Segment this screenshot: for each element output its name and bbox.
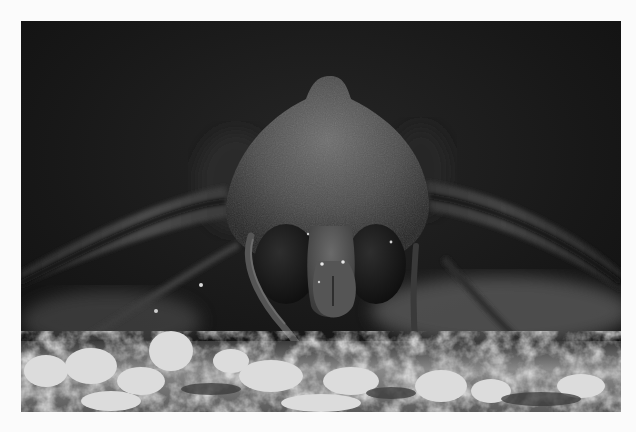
background-ground-haze-right [371,276,621,346]
highlight-speck [341,260,345,264]
page [0,0,636,432]
highlight-speck [390,241,393,244]
labial-palps [313,261,356,317]
photo-caption-area [21,414,621,430]
moth-photograph [21,21,621,412]
highlight-speck [199,283,203,287]
highlight-speck [154,309,158,313]
highlight-speck [307,233,309,235]
moth-photo-canvas [21,21,621,412]
highlight-speck [318,281,320,283]
highlight-speck [320,262,324,266]
